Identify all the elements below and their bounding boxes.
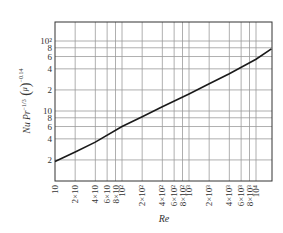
y-tick-label: 6 <box>48 52 53 62</box>
x-tick-label: 2×10³ <box>204 185 214 207</box>
x-tick-label: 10³ <box>184 185 194 197</box>
x-tick-label: 4×10² <box>157 185 167 207</box>
x-tick-labels: 102×104×106×108×1010²2×10²4×10²6×10²8×10… <box>50 185 261 207</box>
chart: 246810246810² 102×104×106×108×1010²2×10²… <box>0 0 283 233</box>
y-tick-label: 6 <box>48 122 53 132</box>
plot-frame <box>55 22 272 181</box>
data-curve <box>55 49 271 162</box>
y-tick-labels: 246810246810² <box>40 36 52 165</box>
grid-lines <box>55 22 272 181</box>
y-tick-label: 4 <box>48 64 53 74</box>
y-tick-label: 2 <box>48 155 53 165</box>
x-tick-label: 2×10² <box>137 185 147 207</box>
x-axis-label: Re <box>158 213 170 224</box>
x-tick-label: 4×10 <box>90 185 100 204</box>
y-tick-label: 10² <box>40 36 52 46</box>
y-tick-label: 4 <box>48 134 53 144</box>
x-tick-label: 2×10 <box>70 185 80 204</box>
y-axis-label: Nu Pr−1/3 (μ)−0.14 <box>18 69 34 135</box>
y-tick-label: 10 <box>43 106 53 116</box>
x-tick-label: 4×10³ <box>224 185 234 207</box>
x-tick-label: 10⁴ <box>251 185 261 197</box>
svg-text:Nu Pr−1/3 (μ)−0.14: Nu Pr−1/3 (μ)−0.14 <box>18 69 34 135</box>
x-tick-label: 10 <box>50 185 60 195</box>
y-tick-label: 2 <box>48 85 53 95</box>
x-tick-label: 10² <box>117 185 127 197</box>
